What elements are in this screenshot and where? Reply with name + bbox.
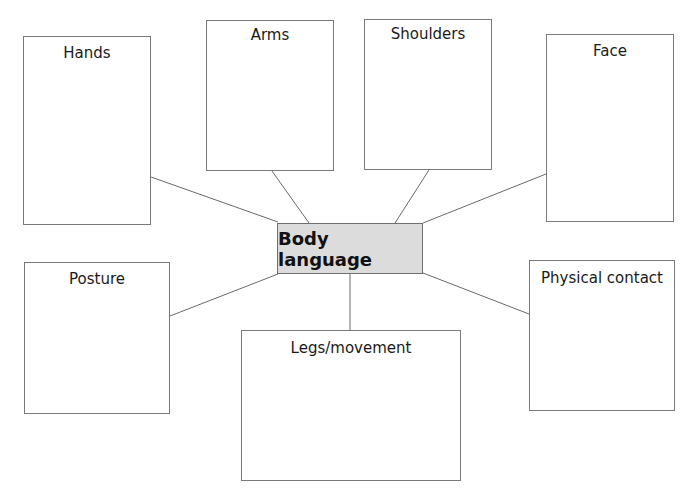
connector-face (423, 174, 546, 223)
center-node-label: Body language (278, 228, 422, 270)
connector-shoulders (395, 170, 429, 223)
box-legs-movement-label: Legs/movement (242, 339, 460, 357)
box-posture: Posture (24, 262, 170, 414)
box-arms-label: Arms (207, 26, 333, 44)
box-physical-contact: Physical contact (529, 260, 675, 411)
connector-posture (170, 274, 278, 316)
connector-physical-contact (423, 273, 529, 314)
box-shoulders-label: Shoulders (365, 25, 491, 43)
box-arms: Arms (206, 20, 334, 171)
box-face-label: Face (547, 42, 673, 60)
center-node: Body language (277, 223, 423, 274)
box-physical-contact-label: Physical contact (530, 269, 674, 287)
box-face: Face (546, 34, 674, 222)
box-hands-label: Hands (24, 44, 150, 62)
connector-hands (151, 177, 278, 222)
box-legs-movement: Legs/movement (241, 330, 461, 481)
box-hands: Hands (23, 36, 151, 225)
box-posture-label: Posture (25, 270, 169, 288)
box-shoulders: Shoulders (364, 19, 492, 170)
connector-arms (272, 171, 309, 223)
